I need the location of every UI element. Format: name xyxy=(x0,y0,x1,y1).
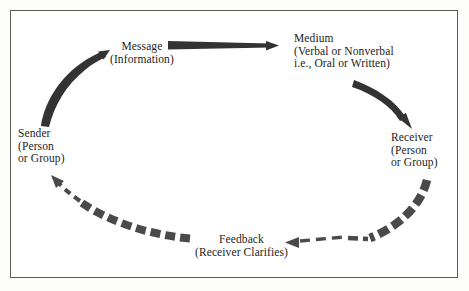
arrow-medium-to-receiver xyxy=(352,80,412,129)
receiver-line-1: Receiver xyxy=(391,131,438,144)
message-line-1: Message xyxy=(110,40,174,53)
sender-line-2: (Person xyxy=(18,140,65,153)
node-label-message: Message (Information) xyxy=(110,40,174,65)
sender-line-1: Sender xyxy=(18,127,65,140)
message-line-2: (Information) xyxy=(110,53,174,66)
arrow-message-to-medium xyxy=(168,41,279,51)
feedback-line-2: (Receiver Clarifies) xyxy=(195,246,288,259)
feedback-line-1: Feedback xyxy=(195,233,288,246)
communication-cycle-figure: Message (Information) Medium (Verbal or … xyxy=(0,0,469,291)
receiver-line-2: (Person xyxy=(391,144,438,157)
receiver-line-3: or Group) xyxy=(391,156,438,169)
medium-line-2: (Verbal or Nonverbal xyxy=(294,45,394,58)
node-label-feedback: Feedback (Receiver Clarifies) xyxy=(195,233,288,258)
arrow-sender-to-message xyxy=(41,50,110,127)
node-label-sender: Sender (Person or Group) xyxy=(18,127,65,165)
node-label-receiver: Receiver (Person or Group) xyxy=(391,131,438,169)
sender-line-3: or Group) xyxy=(18,152,65,165)
node-label-medium: Medium (Verbal or Nonverbal i.e., Oral o… xyxy=(294,32,394,70)
medium-line-1: Medium xyxy=(294,32,394,45)
medium-line-3: i.e., Oral or Written) xyxy=(294,57,394,70)
